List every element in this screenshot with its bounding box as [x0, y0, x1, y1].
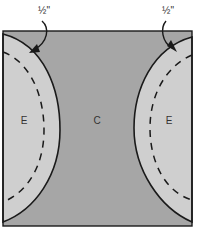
- right-seam-label: ½": [162, 5, 174, 16]
- left-seam-label: ½": [38, 5, 50, 16]
- left-piece-label: E: [21, 115, 28, 126]
- quilt-block-diagram: ½" ½" E C E: [0, 0, 198, 234]
- center-piece-label: C: [93, 115, 100, 126]
- right-piece-label: E: [166, 115, 173, 126]
